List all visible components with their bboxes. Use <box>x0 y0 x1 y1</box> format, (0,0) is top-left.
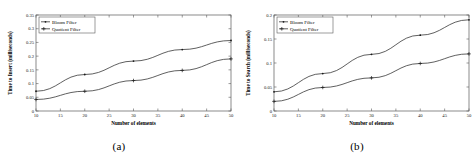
figure-row: 10152025303540455000.050.10.150.20.250.3… <box>0 0 476 154</box>
legend-marker <box>45 21 47 23</box>
legend-label-0: Bloom Filter <box>52 20 77 25</box>
x-tick-label: 15 <box>296 113 301 118</box>
x-tick-label: 40 <box>180 113 185 118</box>
x-tick-label: 25 <box>345 113 350 118</box>
legend-marker <box>283 21 285 23</box>
legend-label-0: Bloom Filter <box>290 20 315 25</box>
data-point-marker <box>371 53 373 55</box>
data-point-marker <box>181 49 183 51</box>
y-tick-label: 0.15 <box>264 37 273 42</box>
x-tick-label: 15 <box>58 113 63 118</box>
x-tick-label: 10 <box>272 113 277 118</box>
x-tick-label: 20 <box>82 113 87 118</box>
y-tick-label: 0.15 <box>26 68 35 73</box>
y-tick-label: 0.35 <box>26 13 35 18</box>
data-point-marker <box>468 19 470 21</box>
y-tick-label: 0.1 <box>28 81 34 86</box>
x-tick-label: 35 <box>156 113 161 118</box>
x-tick-label: 10 <box>34 113 39 118</box>
y-tick-label: 0.2 <box>266 13 272 18</box>
x-tick-label: 45 <box>442 113 447 118</box>
data-point-marker <box>84 74 86 76</box>
data-point-marker <box>230 40 232 42</box>
series-line-0 <box>36 41 231 92</box>
y-tick-label: 0.2 <box>28 54 34 59</box>
data-point-marker <box>419 34 421 36</box>
y-axis-title: Time to Insert (milliseconds) <box>7 31 14 95</box>
data-point-marker <box>322 73 324 75</box>
x-tick-label: 50 <box>467 113 472 118</box>
plot-area-b: 10152025303540455000.050.10.150.2Number … <box>238 0 476 128</box>
data-point-marker <box>133 60 135 62</box>
legend-label-1: Quotient Filter <box>290 27 319 32</box>
data-point-marker <box>35 90 37 92</box>
x-tick-label: 20 <box>320 113 325 118</box>
x-tick-label: 25 <box>107 113 112 118</box>
y-tick-label: 0.25 <box>26 40 35 45</box>
plot-area-a: 10152025303540455000.050.10.150.20.250.3… <box>0 0 238 128</box>
x-tick-label: 40 <box>418 113 423 118</box>
data-point-marker <box>273 91 275 93</box>
y-tick-label: 0.05 <box>26 95 35 100</box>
figure-panel-a: 10152025303540455000.050.10.150.20.250.3… <box>0 0 238 154</box>
y-tick-label: 0.1 <box>266 61 272 66</box>
x-tick-label: 35 <box>394 113 399 118</box>
panel-caption-b: (b) <box>238 140 476 152</box>
y-tick-label: 0.05 <box>264 85 273 90</box>
x-tick-label: 50 <box>229 113 234 118</box>
line-chart-a: 10152025303540455000.050.10.150.20.250.3… <box>0 0 238 128</box>
x-tick-label: 30 <box>369 113 374 118</box>
y-tick-label: 0.3 <box>28 26 34 31</box>
x-tick-label: 30 <box>131 113 136 118</box>
figure-panel-b: 10152025303540455000.050.10.150.2Number … <box>238 0 476 154</box>
line-chart-b: 10152025303540455000.050.10.150.2Number … <box>238 0 476 128</box>
y-axis-title: Time to Search (milliseconds) <box>245 30 252 96</box>
x-axis-title: Number of elements <box>349 120 394 126</box>
legend-label-1: Quotient Filter <box>52 27 81 32</box>
x-tick-label: 45 <box>204 113 209 118</box>
x-axis-title: Number of elements <box>111 120 156 126</box>
panel-caption-a: (a) <box>0 140 238 152</box>
